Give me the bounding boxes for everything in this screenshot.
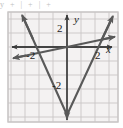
y-tick-label-2: 2 [57,23,63,34]
absolute-value-graph-figure: y + | + | + [0,0,123,128]
y-tick-label-neg2: -2 [52,80,61,91]
x-axis-label: x [106,44,111,55]
y-axis-label: y [74,14,79,25]
x-tick-label-neg2: -2 [26,50,35,61]
x-tick-label-2: 2 [95,50,101,61]
coordinate-plane-svg [0,0,123,128]
